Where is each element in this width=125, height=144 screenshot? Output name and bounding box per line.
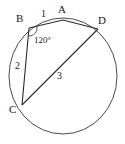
segment-label-cd: 3 bbox=[57, 71, 62, 81]
vertex-label-a: A bbox=[58, 4, 66, 15]
circle-outline bbox=[9, 18, 117, 134]
angle-label-120: 120° bbox=[34, 36, 51, 45]
vertex-label-c: C bbox=[9, 104, 16, 115]
vertex-label-d: D bbox=[98, 15, 106, 26]
vertex-label-b: B bbox=[16, 13, 23, 24]
segment-label-bc: 2 bbox=[15, 61, 20, 71]
segment-label-ba: 1 bbox=[41, 9, 46, 19]
geometry-figure: A B C D 1 2 3 120° bbox=[0, 0, 125, 144]
chord-b-c bbox=[22, 28, 29, 105]
